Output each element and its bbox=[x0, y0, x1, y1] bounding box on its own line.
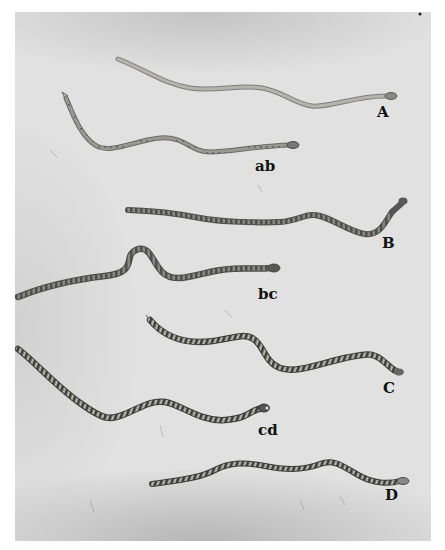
label-ab: ab bbox=[255, 159, 275, 174]
snake-head bbox=[397, 478, 409, 485]
specimen-plate-photo: A ab B bc C cd D bbox=[15, 12, 431, 541]
snake-D bbox=[152, 462, 409, 484]
paper-scratches bbox=[50, 150, 345, 512]
snake-ab bbox=[62, 92, 299, 152]
snake-head bbox=[385, 93, 397, 100]
snake-head bbox=[287, 142, 299, 149]
label-D: D bbox=[385, 488, 398, 503]
snake-head bbox=[399, 198, 408, 205]
snake-B bbox=[128, 198, 408, 235]
snake-head bbox=[394, 369, 404, 376]
label-B: B bbox=[382, 236, 395, 251]
snakes-illustration bbox=[15, 12, 431, 541]
label-A: A bbox=[377, 105, 389, 120]
snake-head bbox=[268, 264, 280, 272]
label-C: C bbox=[383, 381, 395, 396]
dust-spot bbox=[419, 13, 422, 16]
label-bc: bc bbox=[258, 287, 278, 302]
label-cd: cd bbox=[258, 423, 278, 438]
snake-A bbox=[118, 59, 397, 106]
snake-C bbox=[146, 315, 404, 376]
snake-cd bbox=[18, 349, 270, 420]
snake-bc bbox=[18, 249, 280, 297]
